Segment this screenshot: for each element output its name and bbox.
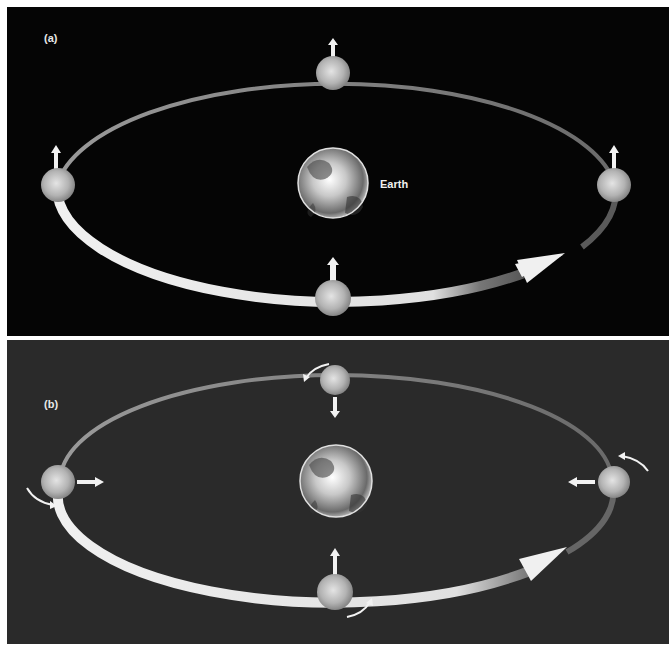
panel-b: (b) (7, 340, 669, 644)
arrow-icon (330, 548, 340, 576)
earth-label: Earth (380, 178, 408, 190)
moon-left (27, 465, 104, 509)
moon-icon (316, 56, 350, 90)
panel-label: (b) (44, 398, 58, 410)
arrow-icon (568, 477, 595, 487)
moon-right (597, 145, 631, 202)
panel-label: (a) (44, 32, 57, 44)
moon-icon (317, 574, 353, 610)
moon-top (316, 38, 350, 90)
moon-icon (41, 465, 75, 499)
moon-icon (320, 365, 350, 395)
arrow-icon (609, 145, 619, 171)
earth-icon (300, 445, 372, 517)
moon-icon (597, 168, 631, 202)
arrow-icon (77, 477, 104, 487)
arrow-icon (330, 397, 340, 418)
panel-a: (a) Earth (7, 7, 669, 336)
moon-top (303, 364, 350, 418)
arrow-icon (327, 257, 339, 284)
earth-icon (298, 148, 368, 218)
arrow-icon (51, 145, 61, 171)
moon-icon (315, 280, 351, 316)
moon-icon (598, 466, 630, 498)
moon-bottom (315, 257, 351, 316)
curved-arrow-icon (622, 456, 648, 471)
moon-icon (41, 168, 75, 202)
moon-right (568, 452, 648, 498)
moon-left (41, 145, 75, 202)
